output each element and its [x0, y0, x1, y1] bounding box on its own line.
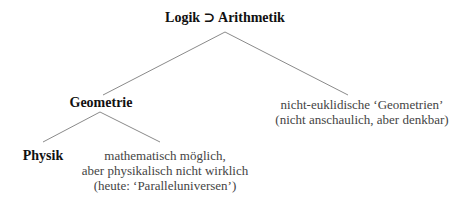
root-label: Logik ⊃ Arithmetik: [165, 10, 285, 25]
root-node: Logik ⊃ Arithmetik: [162, 11, 288, 25]
noneuclidean-line-1: nicht-euklidische ‘Geometrien’: [262, 97, 462, 112]
edge-root-to-noneuclidean: [225, 32, 348, 95]
physik-node: Physik: [18, 149, 68, 163]
mathematical-node: mathematisch möglich, aber physikalisch …: [70, 148, 260, 193]
geometrie-node: Geometrie: [62, 96, 140, 110]
noneuclidean-line-2: (nicht anschaulich, aber denkbar): [262, 112, 462, 127]
mathematical-line-3: (heute: ‘Paralleluniversen’): [70, 178, 260, 193]
edge-geometrie-to-mathematical: [100, 112, 160, 142]
physik-label: Physik: [23, 148, 63, 163]
noneuclidean-node: nicht-euklidische ‘Geometrien’ (nicht an…: [262, 97, 462, 127]
geometrie-label: Geometrie: [70, 95, 133, 110]
mathematical-line-1: mathematisch möglich,: [70, 148, 260, 163]
edge-geometrie-to-physik: [43, 112, 100, 142]
mathematical-line-2: aber physikalisch nicht wirklich: [70, 163, 260, 178]
edge-root-to-geometrie: [103, 32, 225, 95]
